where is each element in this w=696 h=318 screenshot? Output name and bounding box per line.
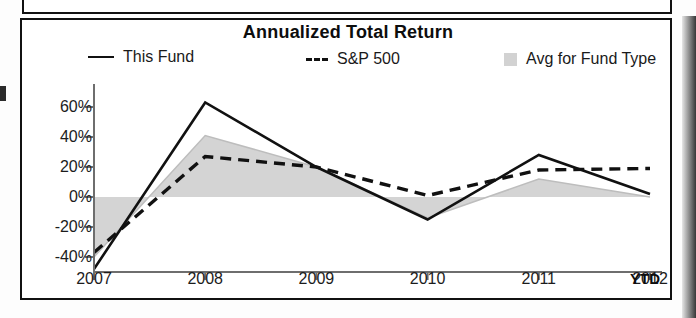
x-axis-tick-label: 2007: [76, 270, 112, 288]
plot-area: 60%40%20%0%-20%-40% 20072008200920102011…: [22, 20, 674, 302]
y-axis-tick-label: 0%: [69, 189, 92, 205]
y-axis-tick-label: 20%: [60, 159, 92, 175]
x-axis-tick-label: 2009: [299, 270, 335, 288]
y-axis-tick-label: -20%: [55, 219, 92, 235]
x-axis-tick-label: 2008: [187, 270, 223, 288]
y-axis-tick-label: 40%: [60, 129, 92, 145]
cropped-box-above: [22, 0, 672, 14]
x-axis-tick-label: 2011: [522, 270, 556, 288]
y-axis-tick-label: 60%: [60, 99, 92, 115]
y-axis-tick-label: -40%: [55, 249, 92, 265]
x-axis-tick-label: 2010: [410, 270, 446, 288]
x-axis-labels: 200720082009201020112012: [22, 270, 674, 294]
page-canvas: Annualized Total Return This Fund S&P 50…: [0, 0, 696, 318]
page-edge-shadow: [682, 16, 696, 318]
plot-svg: [22, 20, 674, 302]
margin-artifact: [0, 86, 6, 101]
chart-panel: Annualized Total Return This Fund S&P 50…: [20, 18, 672, 300]
series-area-avg-for-fund-type: [94, 136, 650, 258]
x-axis-suffix-label: YTD: [630, 270, 660, 287]
y-axis-labels: 60%40%20%0%-20%-40%: [36, 82, 92, 262]
